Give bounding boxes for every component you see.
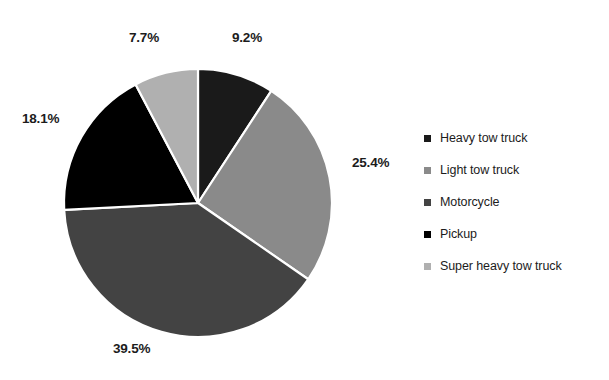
legend-item-label: Heavy tow truck: [440, 131, 527, 145]
slice-label-super-heavy-tow-truck: 7.7%: [129, 30, 159, 45]
chart-legend: Heavy tow truck Light tow truck Motorcyc…: [424, 122, 604, 282]
legend-item-label: Light tow truck: [440, 163, 519, 177]
legend-item-motorcycle[interactable]: Motorcycle: [424, 186, 604, 218]
pie-slice-group: [64, 69, 332, 337]
legend-item-label: Pickup: [440, 227, 477, 241]
legend-swatch-icon: [424, 135, 431, 142]
legend-swatch-icon: [424, 263, 431, 270]
legend-item-label: Super heavy tow truck: [440, 259, 562, 273]
legend-item-super-heavy-tow-truck[interactable]: Super heavy tow truck: [424, 250, 604, 282]
legend-item-heavy-tow-truck[interactable]: Heavy tow truck: [424, 122, 604, 154]
legend-item-pickup[interactable]: Pickup: [424, 218, 604, 250]
legend-item-light-tow-truck[interactable]: Light tow truck: [424, 154, 604, 186]
pie-chart: 9.2% 25.4% 39.5% 18.1% 7.7% Heavy tow tr…: [0, 0, 609, 380]
legend-swatch-icon: [424, 231, 431, 238]
slice-label-pickup: 18.1%: [22, 111, 59, 126]
legend-swatch-icon: [424, 167, 431, 174]
legend-swatch-icon: [424, 199, 431, 206]
slice-label-heavy-tow-truck: 9.2%: [232, 30, 262, 45]
legend-item-label: Motorcycle: [440, 195, 499, 209]
slice-label-motorcycle: 39.5%: [113, 341, 150, 356]
slice-label-light-tow-truck: 25.4%: [352, 155, 389, 170]
